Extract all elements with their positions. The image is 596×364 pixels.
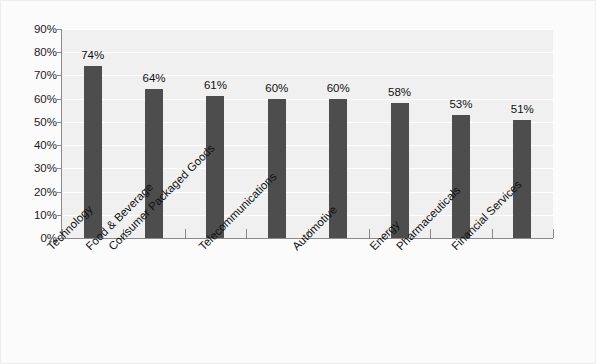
y-axis-tick-label: 30% bbox=[5, 162, 57, 174]
gridline bbox=[62, 52, 553, 53]
y-axis-tick bbox=[57, 192, 61, 193]
y-axis-tick-label: 90% bbox=[5, 23, 57, 35]
x-axis-tick bbox=[430, 229, 431, 238]
y-axis-tick-label: 40% bbox=[5, 139, 57, 151]
y-axis-tick bbox=[57, 145, 61, 146]
y-axis-tick bbox=[57, 215, 61, 216]
y-axis-tick bbox=[57, 99, 61, 100]
y-axis-tick-label: 80% bbox=[5, 46, 57, 58]
y-axis-tick-label: 50% bbox=[5, 116, 57, 128]
y-axis-tick bbox=[57, 168, 61, 169]
bar[interactable] bbox=[268, 99, 286, 238]
y-axis-tick bbox=[57, 75, 61, 76]
bar-value-label: 51% bbox=[502, 103, 542, 115]
y-axis-tick bbox=[57, 122, 61, 123]
bar-value-label: 58% bbox=[380, 86, 420, 98]
gridline bbox=[62, 29, 553, 30]
bar-value-label: 61% bbox=[195, 79, 235, 91]
bar-value-label: 53% bbox=[441, 98, 481, 110]
bar-value-label: 74% bbox=[73, 49, 113, 61]
x-axis-tick bbox=[369, 229, 370, 238]
x-axis-tick bbox=[185, 229, 186, 238]
y-axis-tick-label: 10% bbox=[5, 209, 57, 221]
y-axis-tick bbox=[57, 29, 61, 30]
y-axis-tick-labels: 0%10%20%30%40%50%60%70%80%90% bbox=[1, 1, 57, 364]
bar-value-label: 60% bbox=[257, 82, 297, 94]
x-axis-tick bbox=[553, 229, 554, 238]
bar[interactable] bbox=[452, 115, 470, 238]
x-axis-tick bbox=[246, 229, 247, 238]
x-axis-tick bbox=[492, 229, 493, 238]
bar-value-label: 64% bbox=[134, 72, 174, 84]
y-axis-tick bbox=[57, 52, 61, 53]
y-axis-line bbox=[61, 29, 62, 239]
y-axis-tick-label: 70% bbox=[5, 69, 57, 81]
bar-chart-figure: 0%10%20%30%40%50%60%70%80%90% 74%64%61%6… bbox=[0, 0, 596, 364]
y-axis-tick-label: 60% bbox=[5, 93, 57, 105]
gridline bbox=[62, 168, 553, 169]
bar-value-label: 60% bbox=[318, 82, 358, 94]
gridline bbox=[62, 145, 553, 146]
gridline bbox=[62, 122, 553, 123]
y-axis-tick-label: 20% bbox=[5, 186, 57, 198]
